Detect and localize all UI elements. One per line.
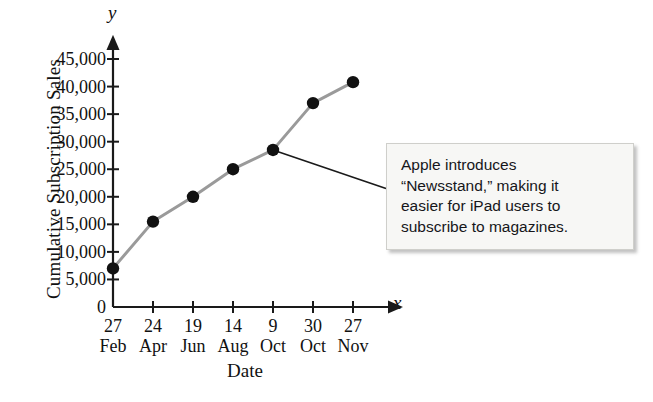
data-point [307, 97, 319, 109]
chart-figure: Cumulative Subscription Sales y x 05,000… [0, 0, 653, 402]
callout-line: “Newsstand,” making it [401, 176, 621, 197]
data-markers [107, 76, 359, 275]
callout-line: subscribe to magazines. [401, 217, 621, 238]
callout-line: Apple introduces [401, 155, 621, 176]
annotation-leader-line [273, 150, 386, 189]
data-point [187, 191, 199, 203]
newsstand-callout: Apple introduces “Newsstand,” making it … [386, 143, 634, 250]
data-point [347, 76, 359, 88]
axis-ticks [107, 59, 353, 313]
callout-line: easier for iPad users to [401, 196, 621, 217]
data-point [267, 144, 279, 156]
axes [113, 48, 390, 307]
data-point [227, 163, 239, 175]
data-point [107, 262, 119, 274]
data-point [147, 215, 159, 227]
